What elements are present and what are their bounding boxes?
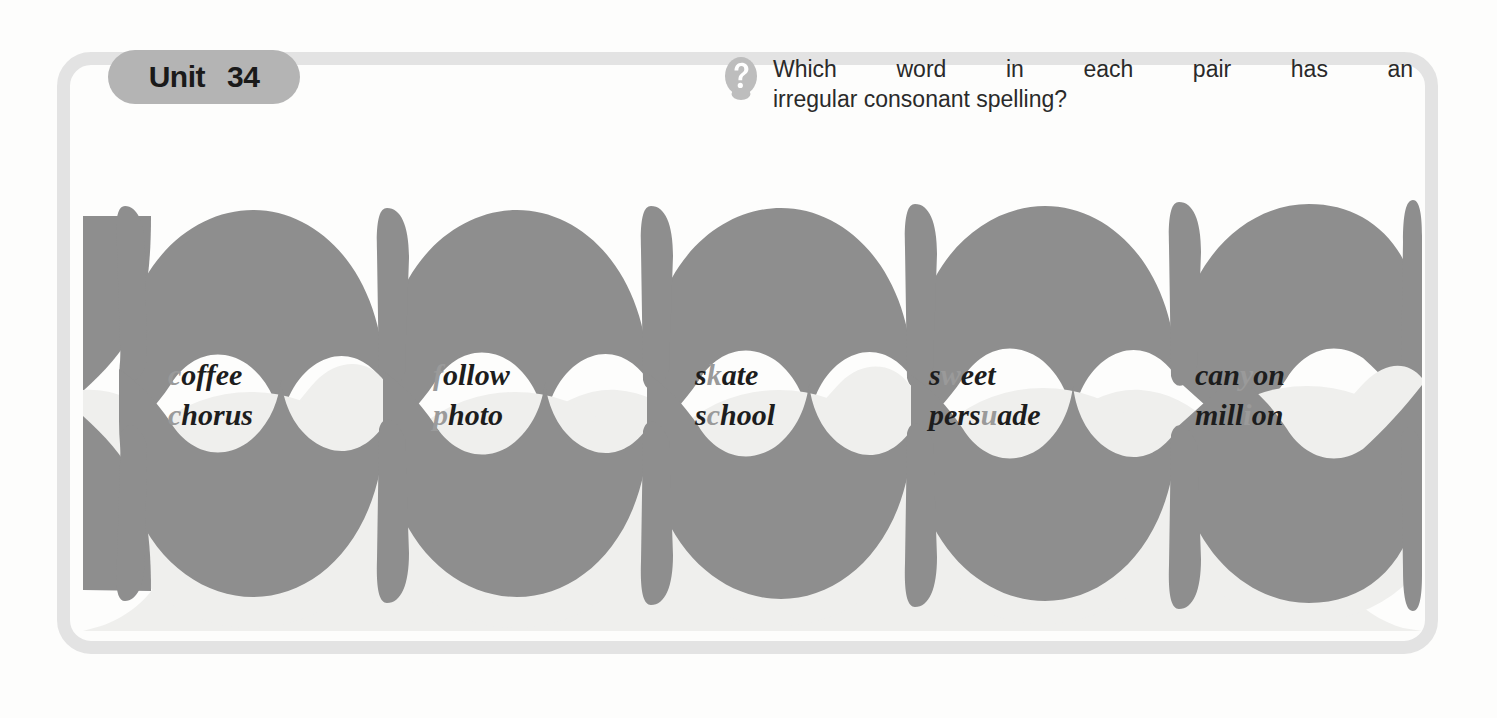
question-word: word xyxy=(896,54,946,84)
muted-letters: u xyxy=(981,398,998,431)
muted-letters: w xyxy=(941,358,961,391)
word-pair: follow photo xyxy=(433,355,510,435)
highlight-letters: pers xyxy=(929,398,981,431)
word-bottom: million xyxy=(1195,395,1285,435)
highlight-letters: horus xyxy=(181,398,253,431)
word-bottom: photo xyxy=(433,395,510,435)
worksheet-page: Unit 34 Which word in each pair has an i… xyxy=(0,0,1497,718)
word-bottom: school xyxy=(695,395,775,435)
word-bottom: persuade xyxy=(929,395,1041,435)
word-pair: coffee chorus xyxy=(168,355,253,435)
highlight-letters: mill xyxy=(1195,398,1243,431)
word-top: follow xyxy=(433,355,510,395)
unit-number: 34 xyxy=(227,62,259,92)
question-line-1: Which word in each pair has an xyxy=(773,54,1413,84)
highlight-letters: s xyxy=(695,358,707,391)
word-bottom: chorus xyxy=(168,395,253,435)
highlight-letters: hoto xyxy=(448,398,503,431)
highlight-letters: on xyxy=(1252,398,1284,431)
word-top: coffee xyxy=(168,355,253,395)
muted-letters: c xyxy=(168,398,181,431)
question-word: has xyxy=(1291,54,1328,84)
question-line-2: irregular consonant spelling? xyxy=(773,84,1413,114)
muted-letters: c xyxy=(168,358,181,391)
highlight-letters: offee xyxy=(181,358,242,391)
unit-badge: Unit 34 xyxy=(108,50,300,104)
highlight-letters: ollow xyxy=(443,358,510,391)
highlight-letters: on xyxy=(1253,358,1285,391)
highlight-letters: ate xyxy=(722,358,759,391)
question-word: pair xyxy=(1193,54,1231,84)
highlight-letters: s xyxy=(695,398,707,431)
word-top: sweet xyxy=(929,355,1041,395)
word-pair: skate school xyxy=(695,355,775,435)
question-word: each xyxy=(1083,54,1133,84)
highlight-letters: can xyxy=(1195,358,1240,391)
word-top: skate xyxy=(695,355,775,395)
muted-letters: c xyxy=(707,398,720,431)
highlight-letters: ade xyxy=(997,398,1040,431)
word-top: canyon xyxy=(1195,355,1285,395)
muted-letters: f xyxy=(433,358,443,391)
question-word: Which xyxy=(773,54,837,84)
question-word: in xyxy=(1006,54,1024,84)
highlight-letters: s xyxy=(929,358,941,391)
highlight-letters: eet xyxy=(961,358,996,391)
word-pair: canyon million xyxy=(1195,355,1285,435)
word-pair: sweet persuade xyxy=(929,355,1041,435)
unit-label: Unit xyxy=(149,62,205,92)
question-word: an xyxy=(1387,54,1413,84)
muted-letters: i xyxy=(1243,398,1251,431)
muted-letters: k xyxy=(707,358,722,391)
highlight-letters: hool xyxy=(720,398,775,431)
muted-letters: y xyxy=(1240,358,1253,391)
question-block: Which word in each pair has an irregular… xyxy=(723,54,1413,114)
question-mark-circle-icon xyxy=(723,56,759,100)
question-text: Which word in each pair has an irregular… xyxy=(773,54,1413,114)
muted-letters: p xyxy=(433,398,448,431)
